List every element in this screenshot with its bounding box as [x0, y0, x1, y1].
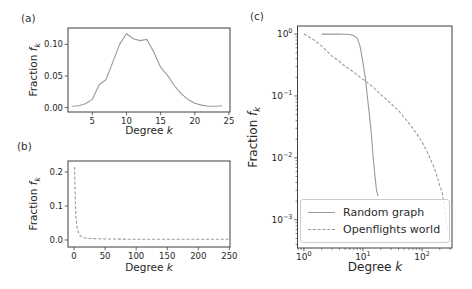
y-tick-label: 0.00: [44, 103, 63, 113]
panel-b-ylabel: Fraction fk: [27, 149, 43, 259]
panel-c-xlabel-var: k: [395, 260, 402, 274]
y-tick-label: 100: [277, 27, 293, 39]
x-tick-label: 100: [296, 250, 312, 262]
figure: 5101520250.000.050.100501001502002500.00…: [0, 0, 472, 289]
panel-a-plot: 5101520250.000.050.10: [44, 28, 234, 126]
x-tick-label: 0: [71, 251, 76, 261]
panel-c-tag: (c): [250, 11, 264, 23]
panel-b-xlabel: Degree k: [68, 261, 230, 273]
legend: Random graph Openflights world: [300, 199, 450, 243]
x-tick-label: 150: [159, 251, 175, 261]
y-tick-label: 0.1: [49, 201, 63, 211]
panel-a-ylabel-var: f: [27, 48, 39, 52]
panel-a-ylabel-text: Fraction: [27, 55, 39, 97]
x-tick-label: 50: [100, 251, 111, 261]
y-tick-label: 10−3: [271, 213, 292, 225]
panel-a-xlabel-text: Degree: [125, 124, 163, 136]
y-tick-label: 0.05: [44, 71, 63, 81]
x-tick-label: 102: [414, 250, 430, 262]
panel-a-ylabel: Fraction fk: [27, 15, 43, 125]
x-tick-label: 250: [221, 251, 237, 261]
panel-b-ylabel-sub: k: [33, 177, 42, 181]
panel-b-plot: 0501001502002500.00.10.2: [49, 161, 237, 261]
legend-item-openflights-world: Openflights world: [308, 224, 442, 235]
panel-c-ylabel-sub: k: [252, 107, 262, 112]
y-tick-label: 0.10: [44, 39, 63, 49]
panel-c-xlabel: Degree k: [298, 261, 452, 275]
panel-a-xlabel-var: k: [167, 124, 173, 136]
x-tick-label: 100: [128, 251, 144, 261]
legend-line-solid: [308, 212, 335, 213]
panel-c-xlabel-text: Degree: [348, 260, 392, 274]
y-tick-label: 10−2: [271, 151, 292, 163]
panel-b-xlabel-var: k: [167, 261, 173, 273]
panel-c-ylabel-text: Fraction: [246, 120, 260, 168]
legend-line-dashed: [308, 229, 335, 230]
plots-canvas: 5101520250.000.050.100501001502002500.00…: [0, 0, 472, 289]
curve-random-graph-degree-distribution: [72, 34, 222, 107]
panel-b-frame: [68, 161, 230, 247]
panel-c-ylabel-var: f: [246, 112, 260, 116]
panel-a-xlabel: Degree k: [68, 124, 230, 136]
legend-label-openflights-world: Openflights world: [343, 224, 440, 235]
y-tick-label: 10−1: [271, 89, 292, 101]
curve-openflights-world-degree-distribution: [75, 167, 230, 239]
x-tick-label: 200: [190, 251, 206, 261]
y-tick-label: 0.0: [49, 235, 63, 245]
panel-b-ylabel-text: Fraction: [27, 189, 39, 231]
curve-random-graph: [322, 34, 378, 196]
panel-a-ylabel-sub: k: [33, 43, 42, 47]
panel-b-xlabel-text: Degree: [125, 261, 163, 273]
legend-label-random-graph: Random graph: [343, 207, 424, 218]
panel-b-ylabel-var: f: [27, 182, 39, 186]
panel-c-ylabel: Fraction fk: [247, 82, 263, 192]
y-tick-label: 0.2: [49, 167, 63, 177]
legend-item-random-graph: Random graph: [308, 207, 442, 218]
